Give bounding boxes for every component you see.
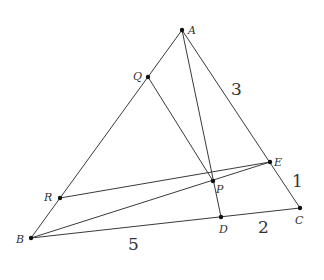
segment-qp (148, 77, 213, 181)
length-ae: 3 (231, 79, 242, 99)
segment-be (31, 162, 270, 238)
label-a: A (187, 24, 196, 37)
label-e: E (273, 156, 282, 169)
segment-ac (182, 30, 300, 208)
point-q (146, 75, 150, 79)
geometry-figure: A B C D E P Q R 3 1 2 5 (0, 0, 324, 280)
label-q: Q (133, 70, 142, 83)
label-c: C (295, 214, 304, 227)
point-a (180, 28, 184, 32)
point-b (29, 236, 33, 240)
length-bd: 5 (128, 234, 139, 254)
triangle-diagram: A B C D E P Q R 3 1 2 5 (0, 0, 324, 280)
length-dc: 2 (258, 217, 269, 237)
point-e (268, 160, 272, 164)
length-ec: 1 (292, 171, 303, 191)
label-d: D (218, 223, 228, 236)
segment-ab (31, 30, 182, 238)
point-p (211, 179, 215, 183)
point-r (58, 196, 62, 200)
label-p: P (215, 183, 224, 196)
point-d (219, 215, 223, 219)
point-c (298, 206, 302, 210)
segment-re (60, 162, 270, 198)
label-r: R (43, 191, 52, 204)
label-b: B (15, 233, 24, 246)
